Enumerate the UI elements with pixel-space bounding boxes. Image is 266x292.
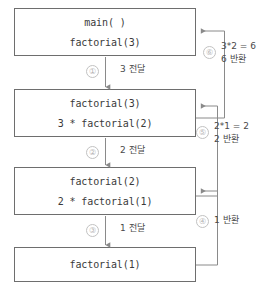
- call-frame-body: 3 * factorial(2): [58, 117, 153, 130]
- return-value-4: 1 반환: [214, 214, 239, 227]
- call-frame-main: main( ) factorial(3): [14, 8, 196, 56]
- call-frame-factorial2: factorial(2) 2 * factorial(1): [14, 167, 196, 215]
- step-marker-circle-4: ④: [196, 215, 209, 228]
- call-frame-body: factorial(3): [69, 36, 140, 49]
- return-label-6: 3*2 = 6 6 반환: [221, 40, 256, 66]
- pass-label-2: 2 전달: [120, 144, 145, 157]
- pass-step-2: ② 2 전달: [86, 137, 166, 170]
- step-marker-circle-2: ②: [86, 146, 99, 159]
- return-expression-6: 3*2 = 6: [221, 40, 256, 53]
- call-frame-factorial3: factorial(3) 3 * factorial(2): [14, 89, 196, 137]
- pass-label-1: 3 전달: [120, 63, 145, 76]
- step-marker-circle-6: ⑥: [203, 46, 216, 59]
- pass-step-3: ③ 1 전달: [86, 215, 166, 248]
- recursion-call-stack-diagram: main( ) factorial(3) factorial(3) 3 * fa…: [0, 0, 266, 292]
- step-marker-circle-5: ⑤: [196, 126, 209, 139]
- return-label-5: 2*1 = 2 2 반환: [214, 120, 249, 146]
- call-frame-factorial1: factorial(1): [14, 247, 196, 282]
- call-frame-title: factorial(2): [69, 175, 140, 188]
- call-frame-title: factorial(1): [69, 258, 140, 271]
- return-label-4: 1 반환: [214, 214, 239, 227]
- return-arrow-4: [196, 191, 218, 265]
- pass-step-1: ① 3 전달: [86, 56, 166, 89]
- step-marker-circle-3: ③: [86, 224, 99, 237]
- pass-label-3: 1 전달: [120, 222, 145, 235]
- call-frame-title: factorial(3): [69, 97, 140, 110]
- return-value-6: 6 반환: [221, 53, 256, 66]
- step-marker-circle-1: ①: [86, 65, 99, 78]
- return-value-5: 2 반환: [214, 133, 249, 146]
- return-expression-5: 2*1 = 2: [214, 120, 249, 133]
- call-frame-body: 2 * factorial(1): [58, 195, 153, 208]
- call-frame-title: main( ): [84, 16, 125, 29]
